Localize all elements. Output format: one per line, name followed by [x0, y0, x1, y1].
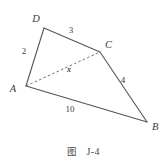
- edge-label-AB: 10: [66, 104, 76, 114]
- edge-label-AD: 2: [22, 46, 27, 56]
- caption-id: J-4: [86, 146, 100, 157]
- vertex-label-D: D: [31, 13, 40, 24]
- figure-caption: 图J-4: [0, 144, 167, 158]
- vertex-label-B: B: [152, 121, 159, 132]
- figure-container: D C A B 2 3 4 10 x 图J-4: [0, 0, 167, 162]
- edge-AB-line: [26, 86, 147, 122]
- diagonal-AC-line: [26, 52, 100, 86]
- geometry-diagram: D C A B 2 3 4 10 x: [0, 0, 167, 162]
- caption-label: 图: [67, 146, 78, 157]
- edge-label-DC: 3: [69, 25, 74, 35]
- vertex-label-C: C: [105, 39, 113, 50]
- edge-CB-line: [100, 52, 147, 122]
- edge-label-CB: 4: [121, 75, 126, 85]
- vertex-label-A: A: [9, 83, 17, 94]
- diagonal-label-x: x: [66, 64, 71, 74]
- edge-AD-line: [26, 28, 44, 86]
